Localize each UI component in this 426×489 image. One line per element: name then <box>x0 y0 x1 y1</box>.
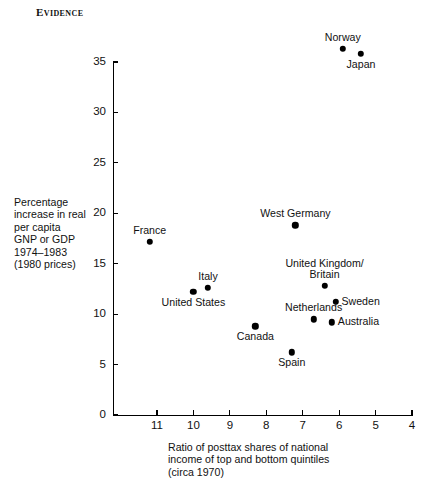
y-tick-35 <box>113 61 118 62</box>
data-point <box>190 289 196 295</box>
x-axis-title-line-0: Ratio of posttax shares of national <box>168 441 378 453</box>
y-axis-title-line-1: increase in real <box>14 208 106 220</box>
x-tick-label-9: 9 <box>217 420 243 432</box>
x-tick-6 <box>339 410 340 415</box>
data-point <box>321 283 327 289</box>
data-point-label: United States <box>162 297 226 309</box>
x-axis-title: Ratio of posttax shares of nationalincom… <box>168 441 378 478</box>
data-point-label: Italy <box>198 271 217 283</box>
data-point <box>292 222 298 228</box>
y-tick-label-25: 25 <box>78 157 106 169</box>
y-axis-title-line-5: (1980 prices) <box>14 258 106 270</box>
data-point-label: Canada <box>237 331 274 343</box>
x-tick-label-10: 10 <box>180 420 206 432</box>
y-axis-title-line-2: per capita <box>14 221 106 233</box>
y-tick-5 <box>113 364 118 365</box>
data-point-label: West Germany <box>260 208 330 220</box>
y-axis-title-line-3: GNP or GDP <box>14 233 106 245</box>
data-point-label: France <box>133 225 166 237</box>
x-axis-line <box>113 415 413 416</box>
data-point <box>310 316 316 322</box>
x-tick-9 <box>229 410 230 415</box>
x-tick-5 <box>375 410 376 415</box>
y-tick-0 <box>113 414 118 415</box>
data-point <box>252 323 258 329</box>
y-tick-label-0: 0 <box>78 409 106 421</box>
y-tick-15 <box>113 263 118 264</box>
y-tick-10 <box>113 314 118 315</box>
y-axis-title-line-4: 1974–1983 <box>14 246 106 258</box>
data-point-label: Netherlands <box>285 302 342 314</box>
data-point <box>289 349 295 355</box>
data-point-label: United Kingdom/Britain <box>285 258 363 281</box>
data-point <box>205 285 211 291</box>
x-axis-title-line-2: (circa 1970) <box>168 466 378 478</box>
y-tick-25 <box>113 162 118 163</box>
x-tick-label-8: 8 <box>253 420 279 432</box>
data-point <box>147 238 153 244</box>
x-tick-8 <box>266 410 267 415</box>
x-tick-label-5: 5 <box>363 420 389 432</box>
x-tick-10 <box>193 410 194 415</box>
x-tick-label-11: 11 <box>144 420 170 432</box>
x-tick-label-7: 7 <box>290 420 316 432</box>
x-axis-title-line-1: income of top and bottom quintiles <box>168 453 378 465</box>
x-tick-11 <box>156 410 157 415</box>
y-axis-title-line-0: Percentage <box>14 196 106 208</box>
data-point-label: Japan <box>347 59 376 71</box>
data-point <box>329 319 335 325</box>
y-tick-label-5: 5 <box>78 359 106 371</box>
x-tick-7 <box>302 410 303 415</box>
data-point <box>340 46 346 52</box>
data-point-label: Norway <box>325 32 361 44</box>
data-point <box>358 51 364 57</box>
y-axis-line <box>113 62 114 416</box>
y-tick-label-35: 35 <box>78 56 106 68</box>
x-tick-label-4: 4 <box>399 420 425 432</box>
y-tick-label-10: 10 <box>78 308 106 320</box>
x-tick-4 <box>411 410 412 415</box>
x-tick-label-6: 6 <box>326 420 352 432</box>
y-tick-label-30: 30 <box>78 106 106 118</box>
data-point-label: Spain <box>278 357 305 369</box>
y-tick-20 <box>113 213 118 214</box>
data-point-label: Sweden <box>342 296 380 308</box>
data-point-label: Australia <box>338 316 379 328</box>
y-tick-30 <box>113 112 118 113</box>
y-axis-title: Percentageincrease in realper capitaGNP … <box>14 196 106 270</box>
